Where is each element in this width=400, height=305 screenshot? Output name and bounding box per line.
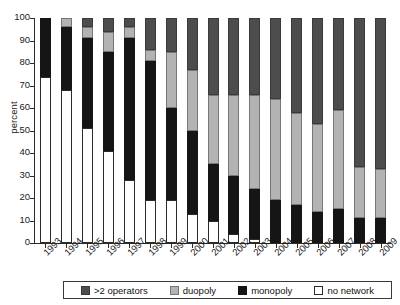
bar-segment [82, 38, 93, 128]
y-tick-label: 40 [4, 147, 30, 157]
chart-legend: >2 operatorsduopolymonopolyno network [63, 281, 392, 299]
bar-segment [82, 128, 93, 243]
bar-2003 [249, 18, 260, 243]
bar-segment [166, 18, 177, 52]
bar-segment [354, 167, 365, 219]
y-tick-label: 60 [4, 102, 30, 112]
bar-segment [312, 212, 323, 244]
y-tick-label: 30 [4, 170, 30, 180]
bar-segment [208, 18, 219, 95]
bar-1993 [40, 18, 51, 243]
bar-segment [124, 18, 135, 27]
bar-segment [375, 169, 386, 219]
bar-2008 [354, 18, 365, 243]
bar-1997 [124, 18, 135, 243]
bar-segment [103, 18, 114, 32]
bar-segment [61, 18, 72, 27]
bar-segment [187, 214, 198, 243]
y-axis-ticks: 0102030405060708090100 [0, 0, 30, 305]
bar-2006 [312, 18, 323, 243]
bar-segment [291, 113, 302, 205]
bar-2005 [291, 18, 302, 243]
bar-segment [291, 18, 302, 113]
bar-segment [208, 95, 219, 165]
bar-segment [208, 164, 219, 220]
legend-swatch-icon [81, 286, 90, 295]
bar-segment [61, 90, 72, 243]
bar-segment [82, 18, 93, 27]
bar-segment [270, 200, 281, 243]
legend-label: >2 operators [94, 285, 148, 296]
bar-2004 [270, 18, 281, 243]
bar-1999 [166, 18, 177, 243]
bar-segment [103, 151, 114, 243]
bar-segment [145, 61, 156, 201]
legend-swatch-icon [170, 286, 179, 295]
bar-segment [354, 18, 365, 167]
bar-2007 [333, 18, 344, 243]
bar-segment [354, 218, 365, 243]
legend-item: >2 operators [81, 285, 148, 296]
bar-segment [145, 200, 156, 243]
legend-item: no network [314, 285, 373, 296]
y-tick-label: 100 [4, 12, 30, 22]
bar-1998 [145, 18, 156, 243]
bar-segment [103, 52, 114, 151]
bar-2001 [208, 18, 219, 243]
bar-segment [291, 205, 302, 243]
bar-segment [249, 189, 260, 239]
bar-segment [333, 209, 344, 243]
bar-2002 [228, 18, 239, 243]
bar-segment [187, 70, 198, 131]
legend-swatch-icon [238, 286, 247, 295]
bar-segment [124, 27, 135, 38]
legend-label: no network [327, 285, 373, 296]
bar-segment [375, 18, 386, 169]
bar-segment [166, 52, 177, 108]
y-tick-label: 80 [4, 57, 30, 67]
bar-segment [145, 50, 156, 61]
bar-segment [312, 124, 323, 212]
bar-1994 [61, 18, 72, 243]
y-tick-label: 50 [4, 125, 30, 135]
bar-segment [166, 200, 177, 243]
bar-segment [333, 18, 344, 110]
bar-segment [375, 218, 386, 243]
bar-segment [82, 27, 93, 38]
bar-segment [249, 95, 260, 190]
stacked-bar-chart: percent 0102030405060708090100 199319941… [0, 0, 400, 305]
y-tick-label: 10 [4, 215, 30, 225]
legend-item: duopoly [170, 285, 216, 296]
y-tick-label: 20 [4, 192, 30, 202]
bar-segment [40, 18, 51, 77]
bar-segment [187, 18, 198, 70]
legend-label: duopoly [183, 285, 216, 296]
bar-segment [249, 18, 260, 95]
bar-2009 [375, 18, 386, 243]
y-tick-label: 70 [4, 80, 30, 90]
bar-segment [166, 108, 177, 200]
bar-segment [124, 180, 135, 243]
bar-segment [333, 110, 344, 209]
bar-1995 [82, 18, 93, 243]
bar-segment [270, 18, 281, 99]
y-tick-label: 90 [4, 35, 30, 45]
bar-segment [208, 221, 219, 244]
bar-segment [187, 131, 198, 214]
bar-segment [270, 99, 281, 200]
legend-item: monopoly [238, 285, 292, 296]
bar-segment [228, 95, 239, 176]
bar-1996 [103, 18, 114, 243]
bar-segment [312, 18, 323, 124]
bar-segment [145, 18, 156, 50]
bar-segment [228, 18, 239, 95]
legend-swatch-icon [314, 286, 323, 295]
bar-segment [40, 77, 51, 244]
legend-label: monopoly [251, 285, 292, 296]
plot-area [35, 18, 391, 243]
y-tick-label: 0 [4, 237, 30, 247]
bar-segment [61, 27, 72, 90]
bar-segment [228, 176, 239, 235]
bar-segment [124, 38, 135, 180]
bar-2000 [187, 18, 198, 243]
